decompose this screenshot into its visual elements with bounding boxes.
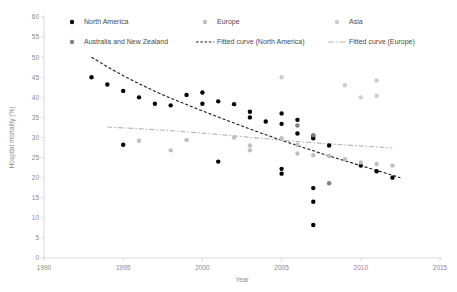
- data-point: [390, 163, 394, 167]
- data-point: [390, 175, 394, 179]
- data-point: [374, 78, 378, 82]
- legend-label: Asia: [349, 18, 363, 25]
- data-point: [200, 102, 204, 106]
- legend-marker-icon: [335, 20, 339, 24]
- x-tick-label: 2010: [354, 264, 369, 271]
- data-point: [232, 102, 236, 106]
- y-tick-label: 10: [32, 214, 40, 221]
- data-point: [279, 75, 283, 79]
- y-tick-label: 5: [35, 234, 39, 241]
- data-point: [359, 160, 363, 164]
- data-point: [232, 135, 236, 139]
- chart-canvas: 0510152025303540455055601990199520002005…: [0, 0, 457, 292]
- legend-label: Europe: [217, 18, 240, 26]
- data-point: [153, 102, 157, 106]
- legend-marker-icon: [203, 20, 207, 24]
- x-tick-label: 2015: [433, 264, 448, 271]
- y-tick-label: 20: [32, 174, 40, 181]
- data-point: [89, 75, 93, 79]
- data-point: [279, 111, 283, 115]
- legend-marker-icon: [70, 40, 74, 44]
- legend-marker-icon: [70, 20, 74, 24]
- x-tick-label: 1990: [37, 264, 52, 271]
- legend-item: Fitted curve (North America): [196, 38, 305, 46]
- legend-label: Fitted curve (North America): [217, 38, 305, 46]
- data-point: [311, 200, 315, 204]
- data-point: [295, 131, 299, 135]
- data-point: [216, 99, 220, 103]
- legend-label: North America: [84, 18, 128, 25]
- data-point: [105, 82, 109, 86]
- data-point: [343, 83, 347, 87]
- data-point: [279, 167, 283, 171]
- data-point: [295, 151, 299, 155]
- data-point: [374, 162, 378, 166]
- legend-item: Europe: [203, 18, 240, 26]
- y-tick-label: 45: [32, 74, 40, 81]
- data-point: [248, 143, 252, 147]
- data-point: [248, 115, 252, 119]
- data-point: [200, 90, 204, 94]
- y-axis-title: Hospital mortality (%): [8, 107, 16, 169]
- data-point: [311, 186, 315, 190]
- data-point: [248, 110, 252, 114]
- data-point: [311, 153, 315, 157]
- y-tick-label: 50: [32, 54, 40, 61]
- data-point: [327, 143, 331, 147]
- data-point: [311, 133, 315, 137]
- series-0: [89, 75, 394, 227]
- data-point: [169, 103, 173, 107]
- scatter-chart: 0510152025303540455055601990199520002005…: [0, 0, 457, 292]
- x-axis-title: Year: [235, 276, 249, 283]
- data-point: [327, 154, 331, 158]
- x-tick-label: 2000: [195, 264, 210, 271]
- data-point: [121, 143, 125, 147]
- data-point: [184, 138, 188, 142]
- data-point: [279, 122, 283, 126]
- y-tick-label: 60: [32, 13, 40, 20]
- data-point: [295, 118, 299, 122]
- data-point: [137, 95, 141, 99]
- y-tick-label: 55: [32, 33, 40, 40]
- data-point: [169, 148, 173, 152]
- data-point: [248, 148, 252, 152]
- data-point: [279, 171, 283, 175]
- y-tick-label: 25: [32, 154, 40, 161]
- legend-item: North America: [70, 18, 129, 25]
- data-point: [264, 119, 268, 123]
- series-2: [279, 75, 378, 99]
- y-tick-label: 15: [32, 194, 40, 201]
- fitted-curve-0: [92, 57, 401, 178]
- data-point: [374, 94, 378, 98]
- legend-item: Asia: [335, 18, 363, 25]
- data-point: [184, 93, 188, 97]
- data-point: [295, 123, 299, 127]
- legend-item: Fitted curve (Europe): [328, 38, 415, 46]
- x-tick-label: 1995: [116, 264, 131, 271]
- series-1: [137, 135, 395, 168]
- data-point: [295, 143, 299, 147]
- data-point: [121, 89, 125, 93]
- y-tick-label: 40: [32, 94, 40, 101]
- legend-label: Australia and New Zealand: [84, 38, 168, 45]
- data-point: [327, 181, 331, 185]
- data-point: [311, 223, 315, 227]
- data-point: [216, 159, 220, 163]
- legend-item: Australia and New Zealand: [70, 38, 168, 45]
- data-point: [137, 139, 141, 143]
- y-tick-label: 0: [35, 254, 39, 261]
- data-point: [374, 169, 378, 173]
- y-tick-label: 35: [32, 114, 40, 121]
- data-point: [359, 95, 363, 99]
- legend-label: Fitted curve (Europe): [349, 38, 415, 46]
- y-tick-label: 30: [32, 134, 40, 141]
- data-point: [343, 157, 347, 161]
- data-point: [279, 136, 283, 140]
- x-tick-label: 2005: [274, 264, 289, 271]
